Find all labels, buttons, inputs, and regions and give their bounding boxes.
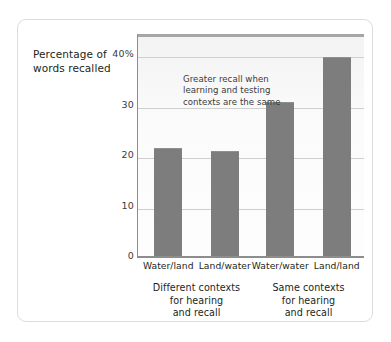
group-caption-line-3: and recall: [142, 307, 252, 320]
y-axis-tick-label: 30: [100, 100, 134, 110]
chart-annotation-line-3: contexts are the same: [183, 97, 313, 108]
x-axis-category-labels: Water/landLand/waterWater/waterLand/land: [138, 260, 364, 274]
group-caption-line-3: and recall: [254, 307, 364, 320]
group-caption-line-1: Different contexts: [142, 282, 252, 295]
group-caption-line-2: for hearing: [142, 295, 252, 308]
y-axis-tick-label: 10: [100, 201, 134, 211]
bar: [266, 102, 294, 256]
group-caption-line-1: Same contexts: [254, 282, 364, 295]
y-axis-tick-labels: 010203040%: [98, 34, 134, 256]
y-axis-tick-label: 40%: [100, 49, 134, 59]
group-caption: Different contextsfor hearingand recall: [142, 282, 252, 320]
chart-annotation-line-1: Greater recall when: [183, 74, 313, 85]
group-caption: Same contextsfor hearingand recall: [254, 282, 364, 320]
bar: [211, 151, 239, 256]
chart-annotation: Greater recall whenlearning and testingc…: [183, 74, 313, 108]
plot-area: Greater recall whenlearning and testingc…: [138, 34, 364, 256]
bar: [323, 57, 351, 256]
group-captions: Different contextsfor hearingand recallS…: [138, 282, 370, 328]
x-axis-line: [138, 256, 364, 258]
bar: [154, 148, 182, 256]
y-axis-tick-label: 20: [100, 150, 134, 160]
figure-card: Percentage of words recalled 010203040% …: [17, 19, 373, 322]
group-caption-line-2: for hearing: [254, 295, 364, 308]
x-axis-category-label: Land/land: [297, 260, 377, 272]
chart-annotation-line-2: learning and testing: [183, 85, 313, 96]
